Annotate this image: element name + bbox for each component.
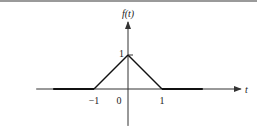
x-tick-label: −1 — [89, 95, 100, 106]
chart: −1011 f(t) t — [0, 0, 257, 132]
curve-slope-segment — [128, 55, 162, 89]
curve-slope-segment — [94, 55, 128, 89]
x-tick-label: 1 — [160, 95, 165, 106]
y-axis-label: f(t) — [122, 8, 135, 20]
x-tick-label: 0 — [117, 95, 122, 106]
y-tick-label: 1 — [119, 48, 124, 59]
x-axis-label: t — [245, 84, 248, 95]
